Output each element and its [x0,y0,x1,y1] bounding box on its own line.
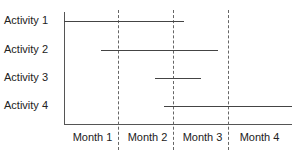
month-label-1: Month 1 [64,131,121,143]
activity-label-2: Activity 2 [4,43,48,55]
activity-bar-3 [155,78,201,79]
activity-bar-1 [64,21,184,22]
y-axis [64,12,65,125]
month-label-3: Month 3 [174,131,231,143]
month-label-4: Month 4 [231,131,288,143]
gridline-month-1-2 [118,10,119,150]
gridline-month-2-3 [173,10,174,150]
activity-label-1: Activity 1 [4,14,48,26]
month-label-2: Month 2 [119,131,176,143]
activity-bar-4 [164,106,292,107]
activity-label-4: Activity 4 [4,99,48,111]
gridline-month-3-4 [228,10,229,150]
activity-label-3: Activity 3 [4,71,48,83]
x-axis [64,124,292,125]
activity-bar-2 [101,50,218,51]
